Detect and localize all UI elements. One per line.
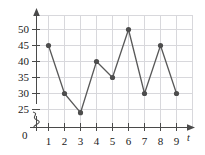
data-point xyxy=(94,59,99,64)
vertical-gridlines xyxy=(49,15,193,127)
x-tick-label-5: 5 xyxy=(107,136,119,147)
data-point xyxy=(110,75,115,80)
x-tick-label-9: 9 xyxy=(171,136,183,147)
x-axis-arrow-icon xyxy=(187,124,195,131)
y-tick-label-35: 35 xyxy=(8,72,29,83)
data-point xyxy=(46,43,51,48)
y-tick-label-40: 40 xyxy=(8,56,29,67)
horizontal-gridlines xyxy=(36,16,193,110)
x-tick-label-2: 2 xyxy=(59,136,71,147)
x-tick-label-8: 8 xyxy=(155,136,167,147)
data-point xyxy=(62,91,67,96)
data-point xyxy=(158,43,163,48)
x-axis-label: t xyxy=(187,133,190,143)
y-tick-label-50: 50 xyxy=(8,24,29,35)
line-chart: 50 45 40 35 30 25 0 1 2 3 4 5 6 7 8 9 t xyxy=(0,0,205,155)
data-point xyxy=(142,91,147,96)
y-tick-label-30: 30 xyxy=(8,88,29,99)
y-tick-label-45: 45 xyxy=(8,40,29,51)
x-tick-label-1: 1 xyxy=(43,136,55,147)
x-tick-label-4: 4 xyxy=(91,136,103,147)
data-point xyxy=(174,91,179,96)
x-tick-label-6: 6 xyxy=(123,136,135,147)
y-tick-label-25: 25 xyxy=(8,104,29,115)
origin-label: 0 xyxy=(22,130,28,141)
chart-plot-area xyxy=(0,0,205,155)
x-tick-label-3: 3 xyxy=(75,136,87,147)
data-point xyxy=(78,110,83,115)
data-point xyxy=(126,27,131,32)
y-axis-arrow-icon xyxy=(33,8,40,16)
x-tick-label-7: 7 xyxy=(139,136,151,147)
